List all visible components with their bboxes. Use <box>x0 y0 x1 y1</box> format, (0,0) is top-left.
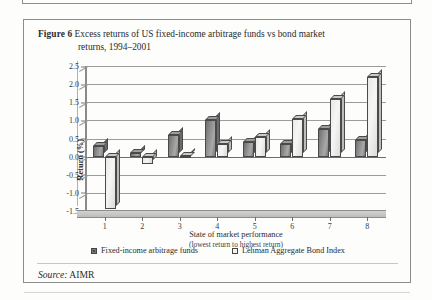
bar-front-face <box>205 120 216 156</box>
gridline <box>86 175 386 176</box>
legend-label-series1: Fixed-income arbitrage funds <box>101 246 198 255</box>
bar-front-face <box>168 135 179 157</box>
figure-caption-line1: Excess returns of US fixed-income arbitr… <box>75 29 325 39</box>
bar-series1-category-6 <box>280 144 291 157</box>
bar-front-face <box>93 146 104 157</box>
y-axis-tick-label: -1.0 <box>66 188 86 197</box>
bar-series1-category-1 <box>93 146 104 157</box>
y-axis-tick-label: 0.0 <box>69 152 86 161</box>
bar-front-face <box>130 153 141 157</box>
source-label: Source: <box>38 269 67 280</box>
bar-series2-category-7 <box>330 99 341 157</box>
bar-series2-category-8 <box>367 77 378 157</box>
chart-legend: Fixed-income arbitrage funds Lehman Aggr… <box>38 246 398 255</box>
bar-front-face <box>355 140 366 156</box>
bar-side-face <box>228 136 232 153</box>
plot-area: Return (%) 2.52.01.51.00.50.0-0.5-1.0-1.… <box>86 66 386 211</box>
x-axis-tick <box>142 217 143 221</box>
legend-swatch-series1 <box>91 248 97 254</box>
legend-item-series1: Fixed-income arbitrage funds <box>91 246 198 255</box>
gridline <box>86 157 386 158</box>
source-line: Source: AIMR <box>38 269 94 280</box>
x-axis-tick <box>105 217 106 221</box>
bar-series1-category-5 <box>243 142 254 157</box>
bar-front-face <box>180 156 191 158</box>
bar-front-face <box>318 129 329 156</box>
x-axis-tick <box>330 217 331 221</box>
chart: Return (%) 2.52.01.51.00.50.0-0.5-1.0-1.… <box>38 58 400 236</box>
bar-series2-category-3 <box>180 156 191 158</box>
x-axis-tick <box>217 217 218 221</box>
x-axis-tick <box>255 217 256 221</box>
legend-label-series2: Lehman Aggregate Bond Index <box>242 246 345 255</box>
bar-front-face <box>105 157 116 210</box>
figure-caption-line2: returns, 1994–2001 <box>78 41 398 54</box>
figure-caption: Figure 6 Excess returns of US fixed-inco… <box>38 28 398 53</box>
x-axis-tick <box>180 217 181 221</box>
y-axis-tick-label: 1.5 <box>69 98 86 107</box>
bar-side-face <box>116 149 120 206</box>
legend-swatch-series2 <box>232 248 238 254</box>
bar-side-face <box>378 69 382 153</box>
bar-series1-category-4 <box>205 120 216 156</box>
bar-series1-category-2 <box>130 153 141 157</box>
bar-series2-category-2 <box>142 157 153 164</box>
bar-series1-category-3 <box>168 135 179 157</box>
bar-front-face <box>142 157 153 164</box>
bar-series1-category-8 <box>355 140 366 156</box>
bar-front-face <box>292 119 303 157</box>
bar-front-face <box>255 137 266 157</box>
y-axis-tick-label: 2.0 <box>69 80 86 89</box>
bar-front-face <box>280 144 291 157</box>
bar-front-face <box>243 142 254 157</box>
y-axis-tick-label: -0.5 <box>66 170 86 179</box>
y-axis-tick-label: 0.5 <box>69 134 86 143</box>
bar-side-face <box>341 91 345 153</box>
figure-page: Figure 6 Excess returns of US fixed-inco… <box>0 0 432 300</box>
chart-floor <box>77 210 386 218</box>
previous-figure-box-edge <box>22 0 412 4</box>
figure-number: Figure 6 <box>38 29 72 39</box>
y-axis-tick-label: 1.0 <box>69 116 86 125</box>
bar-series2-category-6 <box>292 119 303 157</box>
x-axis-tick <box>367 217 368 221</box>
source-value: AIMR <box>69 269 94 280</box>
bar-series2-category-4 <box>217 144 228 157</box>
x-axis-title: State of market performance <box>86 230 386 239</box>
gridline <box>86 84 386 85</box>
gridline <box>86 193 386 194</box>
figure-container: Figure 6 Excess returns of US fixed-inco… <box>23 19 411 283</box>
x-axis-tick <box>292 217 293 221</box>
legend-item-series2: Lehman Aggregate Bond Index <box>232 246 345 255</box>
bar-front-face <box>330 99 341 157</box>
y-axis-tick-label: 2.5 <box>69 62 86 71</box>
bar-front-face <box>367 77 378 157</box>
source-divider <box>37 263 398 264</box>
bar-series2-category-1 <box>105 157 116 210</box>
bar-front-face <box>217 144 228 157</box>
gridline <box>86 66 386 67</box>
bar-series2-category-5 <box>255 137 266 157</box>
page-divider <box>24 292 410 293</box>
bar-series1-category-7 <box>318 129 329 156</box>
